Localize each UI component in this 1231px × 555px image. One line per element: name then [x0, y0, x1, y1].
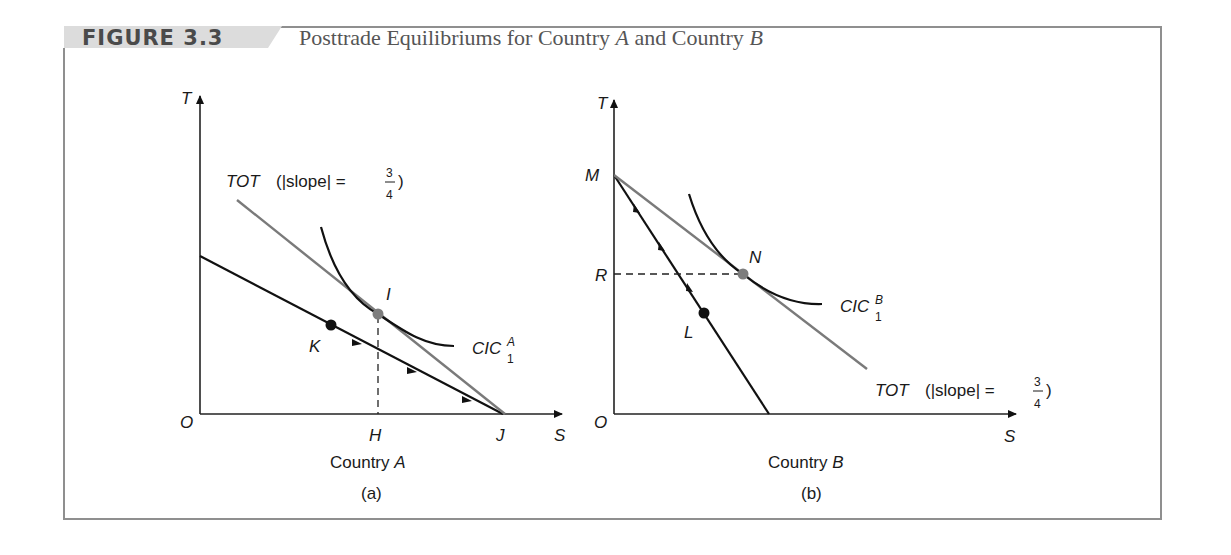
figure-header: FIGURE 3.3 Posttrade Equilibriums for Co…	[64, 25, 763, 50]
panel-a-label-i: I	[386, 285, 391, 304]
svg-text:4: 4	[386, 188, 393, 202]
panel-b-tot-label: TOT (|slope| = 3 4 )	[875, 375, 1052, 411]
panel-a-tot-label: TOT (|slope| = 3 4 )	[226, 166, 404, 202]
panel-b-cic-label: CIC B 1	[840, 293, 883, 324]
panel-a: T S O I K H J TOT (|slope| = 3 4 )	[180, 89, 566, 503]
svg-text:CIC: CIC	[840, 297, 870, 316]
panel-a-country-label: Country A	[330, 453, 406, 472]
figure-frame	[64, 27, 1161, 519]
panel-b-label-m: M	[585, 166, 600, 185]
panel-a-caption: (a)	[361, 484, 382, 503]
panel-b-label-n: N	[749, 248, 762, 267]
panel-a-cic-label: CIC A 1	[472, 335, 515, 366]
panel-b-point-n	[738, 269, 749, 280]
panel-a-point-k	[326, 320, 337, 331]
panel-b-arrow-1	[633, 204, 640, 213]
svg-text:): )	[1046, 381, 1052, 400]
svg-text:CIC: CIC	[472, 339, 502, 358]
panel-a-origin-label: O	[180, 413, 193, 432]
figure-number: FIGURE 3.3	[82, 26, 223, 50]
panel-b-y-axis-label: T	[597, 94, 609, 113]
panel-b-label-r: R	[595, 266, 607, 285]
panel-a-point-i	[373, 309, 384, 320]
svg-text:3: 3	[1034, 375, 1041, 389]
panel-b-point-l	[699, 308, 710, 319]
svg-text:TOT: TOT	[226, 172, 261, 191]
panel-a-label-k: K	[309, 337, 321, 356]
panel-a-label-h: H	[369, 426, 382, 445]
svg-text:(|slope| =: (|slope| =	[276, 172, 346, 191]
panel-a-x-axis-label: S	[554, 426, 566, 445]
panel-b-caption: (b)	[801, 484, 822, 503]
panel-b-label-l: L	[684, 323, 693, 342]
panel-a-y-axis-label: T	[181, 89, 193, 108]
panel-a-tot-line	[237, 200, 505, 414]
svg-text:4: 4	[1034, 397, 1041, 411]
panel-b-arrow-2	[658, 242, 665, 251]
panel-a-ppf-line	[200, 256, 503, 414]
svg-text:): )	[398, 172, 404, 191]
panel-b-country-label: Country B	[768, 453, 844, 472]
svg-text:1: 1	[875, 310, 882, 324]
panel-a-label-j: J	[495, 426, 505, 445]
svg-text:TOT: TOT	[875, 381, 910, 400]
panel-b: T S O M N R L CIC B 1 TOT (|slope| = 3	[585, 94, 1052, 503]
svg-text:A: A	[506, 335, 515, 349]
svg-text:B: B	[875, 293, 883, 307]
figure-title: Posttrade Equilibriums for Country A and…	[299, 25, 763, 50]
panel-b-origin-label: O	[594, 413, 607, 432]
panel-b-arrow-3	[686, 283, 693, 292]
panel-b-x-axis-label: S	[1004, 427, 1016, 446]
svg-text:1: 1	[507, 352, 514, 366]
figure-canvas: FIGURE 3.3 Posttrade Equilibriums for Co…	[0, 0, 1231, 555]
svg-text:3: 3	[386, 166, 393, 180]
svg-text:(|slope| =: (|slope| =	[925, 381, 995, 400]
